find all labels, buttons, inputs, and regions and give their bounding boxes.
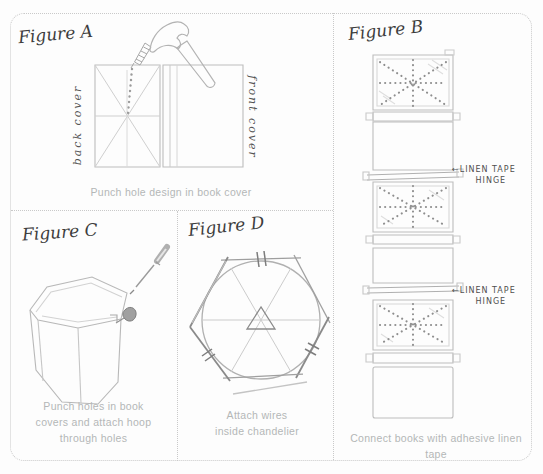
- punch-holes-trail: [128, 69, 132, 114]
- hexagon-frame: [190, 255, 330, 394]
- plain-cover-2: [373, 248, 453, 283]
- book2-punched-cover: [373, 182, 453, 232]
- figure-c-caption: Punch holes in book covers and attach ho…: [14, 398, 173, 446]
- linen-tape-hinge-label-1: ←LINEN TAPE HINGE: [452, 165, 516, 186]
- figure-d-caption: Attach wires inside chandelier: [184, 407, 330, 439]
- figure-a-sketch: [10, 14, 333, 210]
- book-ring-sketch: [30, 277, 127, 404]
- book1-punched-cover: [373, 50, 454, 110]
- hoop-end-icon: [116, 307, 136, 323]
- figure-a-caption: Punch hole design in book cover: [41, 184, 301, 200]
- hole-punch-icon: [131, 43, 151, 68]
- wire-tie-marks: [202, 251, 319, 361]
- hinge-arrow-icon: ←: [452, 286, 460, 295]
- back-cover-sketch: [95, 65, 160, 167]
- front-cover-label: front cover: [246, 75, 259, 159]
- figure-b-sketch: [333, 14, 533, 461]
- book3-punched-cover: [373, 300, 453, 350]
- spine-band-3: [366, 353, 460, 363]
- tape-hinge-2: [363, 283, 463, 294]
- sketch-page: Figure A: [0, 0, 543, 474]
- plain-cover-1: [373, 122, 453, 170]
- back-cover-label: back cover: [71, 85, 84, 166]
- wire-spokes: [202, 268, 320, 372]
- center-triangle: [247, 307, 275, 329]
- tape-hinge-1: [363, 169, 463, 180]
- spine-band-1: [366, 112, 460, 121]
- awl-icon: [130, 247, 167, 294]
- hinge-arrow-icon: ←: [452, 165, 460, 174]
- linen-tape-hinge-label-2: ←LINEN TAPE HINGE: [452, 286, 516, 307]
- spine-band-2: [366, 235, 460, 244]
- figure-b-caption: Connect books with adhesive linen tape: [339, 430, 533, 462]
- plain-cover-3: [373, 367, 453, 418]
